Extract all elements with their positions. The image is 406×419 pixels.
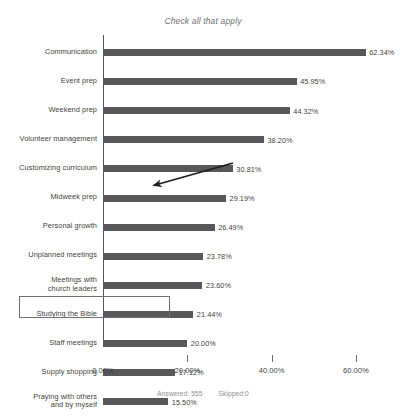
bar [103,282,202,289]
skipped-count: Skipped:0 [219,390,249,397]
bar-value-label: 29.19% [230,195,255,202]
answered-count: Answered: 555 [157,390,202,397]
bar-value-label: 45.95% [300,78,325,85]
bar [103,340,187,347]
bar-value-label: 23.78% [207,253,232,260]
category-label: Meetings withchurch leaders [2,276,97,293]
x-axis-tick-label: 60.00% [343,366,369,375]
bar-value-label: 23.60% [206,282,231,289]
bar [103,78,297,85]
bar-value-label: 30.81% [236,166,261,173]
x-axis-tick [187,355,188,362]
bar-value-label: 21.44% [197,311,222,318]
x-axis-tick [356,355,357,362]
bar [103,195,226,202]
x-axis-tick-label: 20.00% [174,366,200,375]
category-label: Midweek prep [2,193,97,201]
x-axis-tick [272,355,273,362]
bar [103,398,168,405]
x-axis: 0.00%20.00%40.00%60.00% [0,355,406,385]
chart-title: Check all that apply [0,16,406,26]
bar [103,136,264,143]
chart-footer: Answered: 555 Skipped:0 [0,390,406,397]
bar [103,49,366,56]
bar-value-label: 62.34% [369,49,394,56]
category-label: Customizing curriculum [2,164,97,172]
bar [103,224,215,231]
bar [103,107,290,114]
bar-value-label: 20.00% [191,340,216,347]
category-label: Communication [2,48,97,56]
bar-value-label: 38.20% [268,137,293,144]
bar-value-label: 44.32% [293,108,318,115]
category-label: Unplanned meetings [2,251,97,259]
x-axis-tick-label: 0.00% [92,366,114,375]
category-label: Staff meetings [2,339,97,347]
bar [103,253,203,260]
bar-value-label: 26.49% [218,224,243,231]
plot-area: Communication62.34%Event prep45.95%Weeke… [0,33,406,343]
category-label: Personal growth [2,222,97,230]
bar [103,165,233,172]
category-label: Studying the Bible [2,310,97,318]
bar [103,311,193,318]
x-axis-tick-label: 40.00% [259,366,285,375]
category-label: Weekend prep [2,106,97,114]
bar-value-label: 15.50% [172,399,197,406]
category-label: Event prep [2,77,97,85]
survey-bar-chart: Check all that apply Communication62.34%… [0,0,406,419]
category-label: Volunteer management [2,135,97,143]
